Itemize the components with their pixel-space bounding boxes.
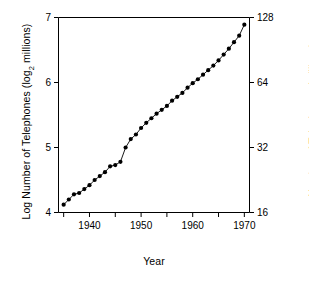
svg-text:16: 16 (257, 207, 269, 218)
data-point (175, 95, 179, 99)
data-point (201, 73, 205, 77)
svg-text:1970: 1970 (233, 220, 256, 231)
axes-frame (59, 18, 250, 213)
svg-text:4: 4 (45, 207, 51, 218)
data-point (232, 40, 236, 44)
data-point (242, 23, 246, 27)
data-point (144, 121, 148, 125)
data-point (149, 116, 153, 120)
svg-text:1940: 1940 (78, 220, 101, 231)
x-axis-ticks: 1940195019601970 (64, 213, 256, 232)
data-point (237, 34, 241, 38)
svg-text:1960: 1960 (182, 220, 205, 231)
data-point (170, 99, 174, 103)
data-point (98, 174, 102, 178)
data-point (196, 77, 200, 81)
svg-text:32: 32 (257, 142, 269, 153)
data-point (191, 81, 195, 85)
y-axis-left-ticks: 4567 (45, 12, 58, 218)
data-point (108, 164, 112, 168)
data-point (211, 64, 215, 68)
data-point (72, 192, 76, 196)
data-point (222, 52, 226, 56)
data-point (180, 91, 184, 95)
telephones-growth-chart: Log Number of Telephones (log2 millions)… (0, 0, 309, 292)
data-point (129, 137, 133, 141)
data-series-telephones (62, 23, 247, 207)
data-point (227, 47, 231, 51)
data-point (103, 170, 107, 174)
svg-text:1950: 1950 (130, 220, 153, 231)
svg-text:6: 6 (45, 77, 51, 88)
data-point (118, 160, 122, 164)
data-point (206, 68, 210, 72)
data-point (216, 58, 220, 62)
data-point (139, 126, 143, 130)
data-point (93, 178, 97, 182)
svg-text:128: 128 (257, 12, 274, 23)
plot-area: 1940195019601970 4567 163264128 (0, 0, 309, 292)
data-point (82, 187, 86, 191)
data-point (62, 203, 66, 207)
data-point (77, 191, 81, 195)
y-axis-right-ticks: 163264128 (250, 12, 275, 218)
data-point (134, 132, 138, 136)
data-point (67, 197, 71, 201)
svg-text:5: 5 (45, 142, 51, 153)
svg-text:64: 64 (257, 77, 269, 88)
data-point (185, 86, 189, 90)
data-point (154, 112, 158, 116)
svg-text:7: 7 (45, 12, 51, 23)
data-point (160, 108, 164, 112)
data-point (87, 183, 91, 187)
data-point (165, 104, 169, 108)
data-point (124, 145, 128, 149)
data-point (113, 163, 117, 167)
